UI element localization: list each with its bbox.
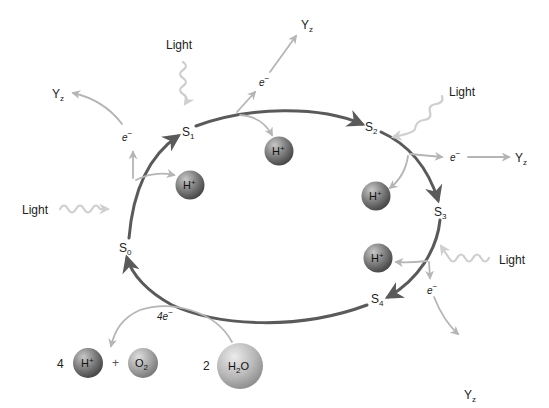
water-ball: H2O [217, 343, 263, 389]
proton-ball-s2: H+ [362, 182, 391, 211]
light-wave-to-s3 [441, 246, 489, 262]
light-label-s0: Light [22, 203, 49, 217]
electrons-released-label: 4e− [157, 308, 173, 322]
light-wave-to-s0 [60, 206, 108, 213]
reactant: 2 H2O [203, 343, 263, 389]
state-s1: S1 [182, 125, 195, 141]
arrow-s0-electron-to-yz [73, 93, 122, 124]
state-s0: S0 [119, 241, 132, 257]
yz-label-s2: Yz [515, 151, 527, 167]
arrow-s1-electron-to-yz [270, 36, 296, 72]
light-wave-to-s1 [180, 62, 187, 104]
arrow-s0-to-s1 [129, 136, 178, 238]
proton-ball-s0: H+ [176, 171, 205, 200]
acceptor-labels: Yz Yz Yz Yz [52, 18, 527, 404]
arrow-s1-to-s2 [196, 111, 362, 126]
arrow-s3-electron-to-yz [434, 297, 458, 334]
yz-label-s1: Yz [301, 18, 313, 34]
proton-ball-s3: H+ [364, 244, 393, 273]
electron-label-s1: e− [259, 74, 270, 88]
electron-label-s3: e− [427, 282, 438, 296]
proton-balls: H+ H+ H+ H+ [176, 137, 393, 273]
proton-coefficient: 4 [57, 357, 64, 371]
proton-ball-s1: H+ [265, 137, 294, 166]
state-s3: S3 [434, 205, 447, 221]
kok-cycle-diagram: S0 S1 S2 S3 S4 Light Light Light Light e… [0, 0, 549, 408]
yz-label-s3: Yz [464, 388, 476, 404]
arrow-s2-proton [390, 156, 408, 188]
arrow-s3-electron [429, 262, 430, 278]
state-s4: S4 [371, 292, 384, 308]
arrow-s2-to-s3 [381, 132, 438, 200]
state-s2: S2 [365, 120, 378, 136]
products: 4 H+ + O2 4e− [57, 308, 173, 378]
electron-label-s0: e− [122, 129, 133, 143]
electron-label-s2: e− [450, 149, 461, 163]
light-label-s1: Light [166, 38, 193, 52]
arrow-s1-electron [237, 92, 255, 112]
light-wave-to-s2 [393, 96, 442, 137]
water-coefficient: 2 [203, 359, 210, 373]
yz-label-s0: Yz [52, 87, 64, 103]
light-label-s3: Light [499, 253, 526, 267]
product-proton-ball: H+ [73, 348, 103, 378]
arrow-s1-proton [240, 115, 272, 135]
plus-sign: + [112, 356, 119, 370]
light-label-s2: Light [449, 85, 476, 99]
product-oxygen-ball: O2 [128, 348, 158, 378]
arrow-s3-proton [396, 261, 427, 262]
